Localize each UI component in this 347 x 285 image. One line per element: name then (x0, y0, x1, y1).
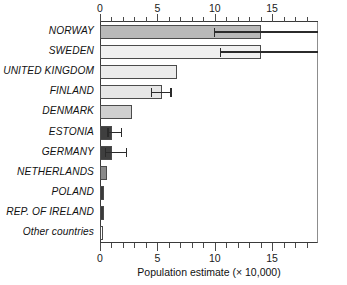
tick-minor-4 (146, 17, 147, 22)
tick-minor-7 (180, 243, 181, 248)
tick-minor-8 (192, 243, 193, 248)
category-label-sweden: SWEDEN (0, 45, 94, 56)
tick-minor-14 (261, 17, 262, 22)
tick-major-10 (215, 14, 216, 22)
tick-major-5 (157, 14, 158, 22)
error-bar-cap-low-germany (105, 148, 106, 157)
category-label-united-kingdom: UNITED KINGDOM (0, 65, 94, 76)
tick-minor-14 (261, 243, 262, 248)
category-label-estonia: ESTONIA (0, 126, 94, 137)
tick-minor-3 (134, 17, 135, 22)
tick-minor-1 (111, 243, 112, 248)
x-axis-title: Population estimate (× 10,000) (100, 266, 318, 278)
tick-label-bottom-10: 10 (200, 252, 230, 264)
tick-minor-16 (284, 17, 285, 22)
error-bar-cap-low-norway (214, 28, 215, 37)
error-bar-line-estonia (108, 132, 122, 133)
category-label-rep-of-ireland: REP. OF IRELAND (0, 206, 94, 217)
population-bar-chart: 005510101515 NORWAYSWEDENUNITED KINGDOMF… (0, 0, 347, 285)
tick-minor-11 (226, 17, 227, 22)
tick-minor-17 (295, 243, 296, 248)
error-bar-line-finland (152, 92, 172, 93)
error-bar-cap-low-finland (151, 88, 152, 97)
error-bar-line-sweden (220, 51, 318, 52)
tick-label-bottom-15: 15 (257, 252, 287, 264)
category-label-denmark: DENMARK (0, 105, 94, 116)
tick-major-5 (157, 243, 158, 251)
tick-major-0 (100, 243, 101, 251)
tick-minor-6 (169, 17, 170, 22)
tick-minor-4 (146, 243, 147, 248)
category-label-other-countries: Other countries (0, 226, 94, 237)
bar-poland (100, 186, 104, 200)
error-bar-cap-high-estonia (121, 128, 122, 137)
category-label-finland: FINLAND (0, 85, 94, 96)
tick-minor-2 (123, 243, 124, 248)
bar-other-countries (100, 226, 103, 240)
tick-label-bottom-5: 5 (142, 252, 172, 264)
tick-minor-13 (249, 17, 250, 22)
tick-minor-18 (307, 243, 308, 248)
error-bar-line-germany (106, 152, 127, 153)
bar-denmark (100, 105, 132, 119)
error-bar-cap-low-estonia (107, 128, 108, 137)
bar-rep-of-ireland (100, 206, 104, 220)
category-label-poland: POLAND (0, 186, 94, 197)
category-label-germany: GERMANY (0, 146, 94, 157)
error-bar-line-norway (215, 31, 318, 32)
error-bar-cap-high-finland (170, 88, 171, 97)
tick-minor-1 (111, 17, 112, 22)
error-bar-cap-high-germany (126, 148, 127, 157)
tick-label-bottom-0: 0 (85, 252, 115, 264)
tick-label-top-10: 10 (200, 2, 230, 14)
tick-minor-11 (226, 243, 227, 248)
tick-minor-2 (123, 17, 124, 22)
tick-minor-6 (169, 243, 170, 248)
tick-minor-9 (203, 17, 204, 22)
category-label-norway: NORWAY (0, 25, 94, 36)
category-label-netherlands: NETHERLANDS (0, 166, 94, 177)
bar-united-kingdom (100, 65, 177, 79)
tick-major-10 (215, 243, 216, 251)
tick-minor-12 (238, 243, 239, 248)
tick-minor-13 (249, 243, 250, 248)
tick-minor-12 (238, 17, 239, 22)
tick-minor-3 (134, 243, 135, 248)
tick-label-top-15: 15 (257, 2, 287, 14)
bar-netherlands (100, 166, 107, 180)
tick-label-top-5: 5 (142, 2, 172, 14)
error-bar-cap-low-sweden (220, 48, 221, 57)
tick-major-15 (272, 14, 273, 22)
tick-major-15 (272, 243, 273, 251)
tick-minor-8 (192, 17, 193, 22)
tick-label-top-0: 0 (85, 2, 115, 14)
tick-minor-7 (180, 17, 181, 22)
tick-minor-17 (295, 17, 296, 22)
tick-minor-18 (307, 17, 308, 22)
tick-major-0 (100, 14, 101, 22)
tick-minor-9 (203, 243, 204, 248)
tick-minor-16 (284, 243, 285, 248)
